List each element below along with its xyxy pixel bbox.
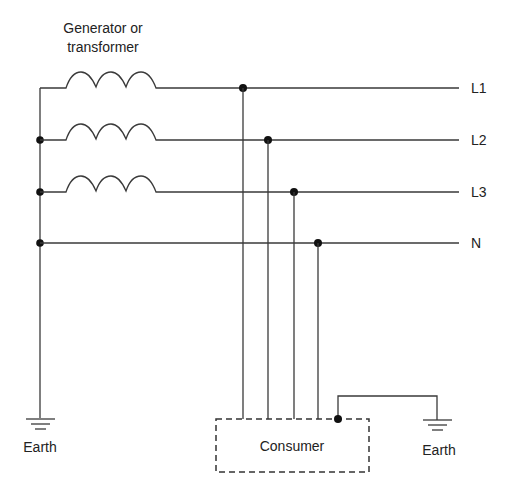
star-point-bus: [36, 88, 44, 418]
conductor-l1: [40, 72, 459, 92]
label-l1: L1: [471, 80, 487, 96]
earth-right-icon: [423, 420, 452, 430]
source-label-line1: Generator or: [63, 20, 143, 36]
label-l3: L3: [471, 184, 487, 200]
earth-left-icon: [26, 419, 55, 429]
label-n: N: [471, 235, 481, 251]
earth-left-label: Earth: [23, 439, 56, 455]
earth-node: [334, 415, 342, 423]
winding-l2-icon: [40, 124, 459, 140]
supply-diagram: Generator or transformer L1 L2 L3 N C: [0, 0, 507, 490]
label-l2: L2: [471, 132, 487, 148]
earth-right-label: Earth: [422, 442, 455, 458]
winding-l3-icon: [40, 176, 459, 192]
winding-l1-icon: [40, 72, 459, 88]
conductor-l2: [40, 124, 459, 144]
consumer-feeders: [243, 88, 318, 419]
consumer-label: Consumer: [260, 438, 325, 454]
conductor-l3: [40, 176, 459, 196]
source-label-line2: transformer: [67, 39, 139, 55]
conductor-n: [40, 239, 459, 247]
